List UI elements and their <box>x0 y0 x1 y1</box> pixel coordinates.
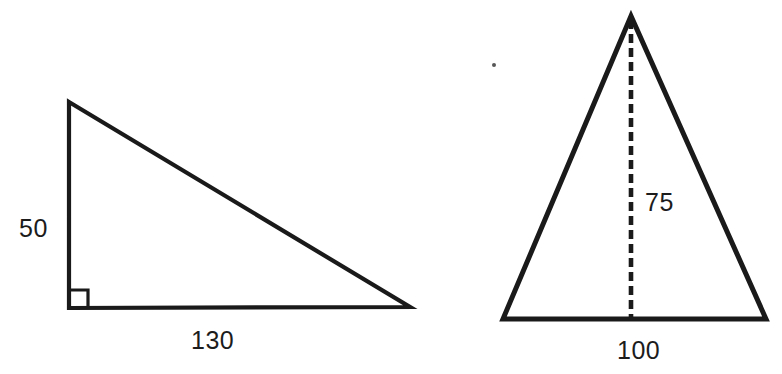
dimension-label-right-height: 75 <box>645 190 674 215</box>
right-triangle-outline <box>69 102 410 308</box>
right-triangle-figure <box>69 102 410 308</box>
isosceles-triangle-outline <box>503 16 766 319</box>
geometry-figure-canvas <box>0 0 782 374</box>
scan-speck-artifact <box>492 63 496 67</box>
isosceles-triangle-figure <box>503 16 766 319</box>
dimension-label-left-base: 130 <box>191 328 234 353</box>
dimension-label-left-height: 50 <box>19 216 48 241</box>
dimension-label-right-base: 100 <box>617 338 660 363</box>
right-angle-marker-icon <box>71 290 88 306</box>
